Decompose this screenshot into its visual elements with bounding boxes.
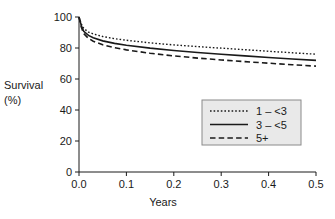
legend-label-dashed: 5+ [256, 132, 269, 144]
x-tick-label: 0.5 [308, 178, 323, 190]
x-tick-label: 0.2 [166, 178, 181, 190]
legend-label-solid: 3 – <5 [256, 119, 287, 131]
x-tick-label: 0.0 [71, 178, 86, 190]
survival-curves [79, 17, 316, 66]
y-tick-label: 0 [66, 166, 72, 178]
x-tick-label: 0.1 [119, 178, 134, 190]
legend-label-dotted: 1 – <3 [256, 105, 287, 117]
survival-plot: 020406080100 0.00.10.20.30.40.5 Years Su… [0, 0, 335, 219]
chart-legend: 1 – <33 – <55+ [202, 100, 301, 145]
y-axis-tick-labels: 020406080100 [54, 11, 72, 178]
y-tick-label: 20 [60, 135, 72, 147]
x-axis-tick-labels: 0.00.10.20.30.40.5 [71, 178, 323, 190]
y-tick-label: 100 [54, 11, 72, 23]
x-tick-label: 0.4 [261, 178, 276, 190]
survival-curve-figure: 020406080100 0.00.10.20.30.40.5 Years Su… [0, 0, 335, 219]
survival-curve-solid [79, 17, 316, 60]
y-tick-label: 80 [60, 42, 72, 54]
x-tick-label: 0.3 [214, 178, 229, 190]
plot-axes [75, 17, 316, 176]
x-axis-ticks [79, 172, 316, 176]
y-axis-title-line1: Survival [4, 79, 43, 91]
y-tick-label: 60 [60, 73, 72, 85]
y-axis-ticks [75, 17, 79, 172]
x-axis-title: Years [149, 196, 177, 208]
survival-curve-dotted [79, 17, 316, 54]
y-tick-label: 40 [60, 104, 72, 116]
y-axis-title-line2: (%) [4, 94, 21, 106]
